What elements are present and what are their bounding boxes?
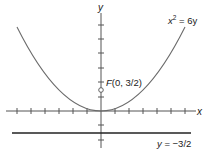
equation-label: x2 = 6y — [167, 14, 197, 26]
directrix-label: y = −3/2 — [156, 138, 191, 149]
x-axis-label: x — [196, 106, 203, 117]
focus-point — [99, 88, 104, 93]
focus-label: F(0, 3/2) — [106, 77, 142, 88]
parabola-diagram: x y y = −3/2 F(0, 3/2) x2 = 6y — [0, 0, 204, 153]
y-axis-label: y — [97, 2, 104, 13]
